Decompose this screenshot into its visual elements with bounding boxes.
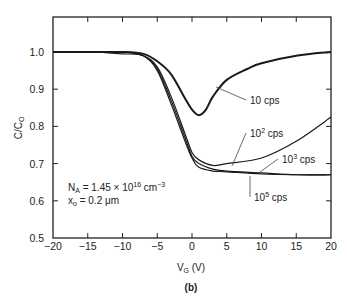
y-tick-label: 0.7 xyxy=(29,158,44,170)
leader-line xyxy=(216,87,246,100)
labels: 10 cps102 cps103 cps105 cpsNA = 1.45 × 1… xyxy=(13,87,315,293)
x-tick-label: 15 xyxy=(290,240,302,252)
curve-label: 103 cps xyxy=(282,153,315,165)
y-tick-label: 0.6 xyxy=(29,195,44,207)
x-tick-label: −15 xyxy=(79,240,97,252)
annotation-doping: NA = 1.45 × 1016 cm−3 xyxy=(68,181,165,194)
curve-label: 102 cps xyxy=(250,127,283,139)
y-tick-label: 0.5 xyxy=(29,232,44,244)
capacitance-chart: −20−15−10−5051015200.50.60.70.80.91.0 10… xyxy=(0,0,347,304)
curve-label: 10 cps xyxy=(250,95,279,106)
x-tick-label: 0 xyxy=(189,240,195,252)
x-tick-label: 20 xyxy=(325,240,337,252)
x-tick-label: 5 xyxy=(224,240,230,252)
x-axis-label: VG (V) xyxy=(177,262,205,274)
x-tick-label: −5 xyxy=(151,240,163,252)
y-tick-label: 0.8 xyxy=(29,120,44,132)
panel-label: (b) xyxy=(185,282,198,293)
leader-line xyxy=(260,159,278,172)
curve-label: 105 cps xyxy=(254,191,287,203)
x-tick-label: −10 xyxy=(114,240,132,252)
curve-10-cps xyxy=(53,52,331,115)
y-tick-label: 0.9 xyxy=(29,83,44,95)
x-tick-label: −20 xyxy=(44,240,62,252)
y-axis-label: C/CO xyxy=(13,116,25,139)
y-tick-label: 1.0 xyxy=(29,46,44,58)
annotation-oxide: xo = 0.2 μm xyxy=(68,195,119,207)
x-tick-label: 10 xyxy=(256,240,268,252)
